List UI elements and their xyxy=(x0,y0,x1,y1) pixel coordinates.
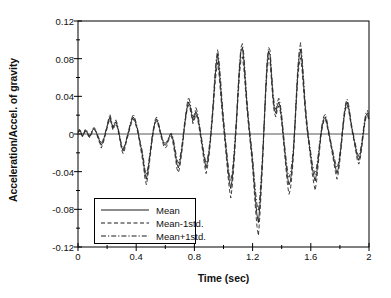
legend-label: Mean xyxy=(156,205,180,216)
y-tick-label: 0.04 xyxy=(30,91,74,102)
legend-line-sample xyxy=(100,205,150,215)
legend-item: Mean+1std. xyxy=(100,230,206,242)
series-line-mean xyxy=(78,47,369,222)
chart-figure: Acceleration/Accel. of gravity 0.120.080… xyxy=(0,0,391,298)
y-axis-tick-labels: 0.120.080.040-0.04-0.08-0.12 xyxy=(24,0,74,298)
legend-item: Mean-1std. xyxy=(100,217,204,229)
y-tick-label: -0.08 xyxy=(30,204,74,215)
legend-line-sample xyxy=(100,231,150,241)
legend-item: Mean xyxy=(100,204,180,216)
x-tick-label: 1.2 xyxy=(246,251,259,262)
y-axis-title-text: Acceleration/Accel. of gravity xyxy=(7,58,19,202)
y-axis-title: Acceleration/Accel. of gravity xyxy=(2,0,24,260)
x-tick-label: 0 xyxy=(75,251,80,262)
x-tick-label: 0.8 xyxy=(188,251,201,262)
legend-line-sample xyxy=(100,218,150,228)
x-tick-label: 1.6 xyxy=(304,251,317,262)
y-tick-label: 0.08 xyxy=(30,53,74,64)
legend: MeanMean-1std.Mean+1std. xyxy=(94,198,196,244)
legend-label: Mean-1std. xyxy=(156,218,204,229)
x-axis-title: Time (sec) xyxy=(78,272,369,284)
y-tick-label: 0.12 xyxy=(30,16,74,27)
y-tick-label: -0.04 xyxy=(30,166,74,177)
x-tick-label: 0.4 xyxy=(130,251,143,262)
x-tick-label: 2 xyxy=(366,251,371,262)
y-tick-label: 0 xyxy=(30,129,74,140)
legend-label: Mean+1std. xyxy=(156,231,206,242)
y-tick-label: -0.12 xyxy=(30,242,74,253)
